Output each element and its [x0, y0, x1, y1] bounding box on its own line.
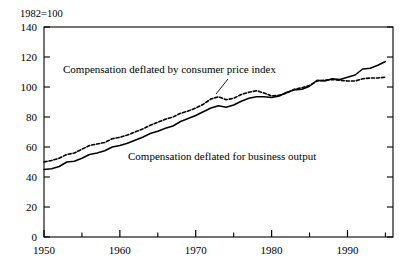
chart-background	[0, 0, 417, 268]
x-tick-label: 1970	[185, 244, 208, 256]
y-tick-label: 20	[26, 201, 38, 213]
y-tick-label: 40	[26, 171, 38, 183]
x-tick-label: 1980	[261, 244, 284, 256]
y-tick-label: 120	[21, 51, 38, 63]
x-tick-label: 1960	[109, 244, 132, 256]
y-tick-label: 60	[26, 141, 38, 153]
y-tick-label: 140	[21, 21, 38, 33]
line-chart: 1982=100 020406080100120140 195019601970…	[0, 0, 417, 268]
y-tick-label: 0	[32, 231, 38, 243]
x-tick-label: 1990	[336, 244, 359, 256]
x-tick-label: 1950	[33, 244, 56, 256]
series-label-business-output: Compensation deflated for business outpu…	[128, 150, 316, 162]
y-tick-label: 100	[21, 81, 38, 93]
y-tick-label: 80	[26, 111, 38, 123]
series-label-consumer-price-index: Compensation deflated by consumer price …	[63, 63, 276, 75]
chart-container: 1982=100 020406080100120140 195019601970…	[0, 0, 417, 268]
index-base-note: 1982=100	[20, 8, 63, 19]
